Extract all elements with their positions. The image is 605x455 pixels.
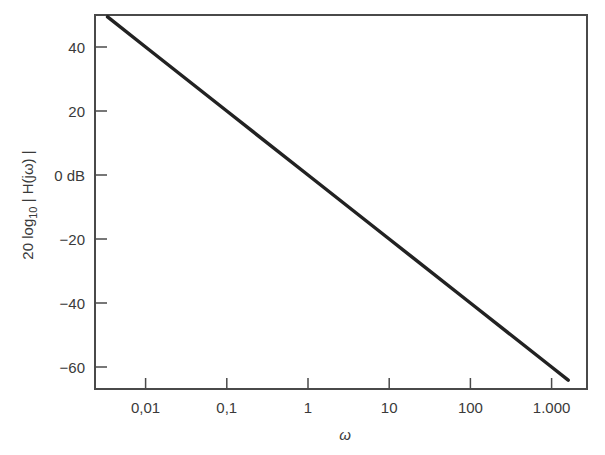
y-axis-ticks: 40200 dB−20−40−60	[54, 39, 107, 376]
y-tick-label: −40	[60, 295, 85, 312]
y-tick-label: −60	[60, 359, 85, 376]
bode-magnitude-chart: 0,010,11101001.000 40200 dB−20−40−60 ω 2…	[0, 0, 605, 455]
x-tick-label: 100	[458, 399, 483, 416]
y-tick-label: 20	[68, 103, 85, 120]
x-tick-label: 1.000	[533, 399, 571, 416]
y-tick-label: −20	[60, 231, 85, 248]
x-tick-label: 0,01	[131, 399, 160, 416]
x-tick-label: 10	[381, 399, 398, 416]
x-tick-label: 0,1	[216, 399, 237, 416]
y-axis-label: 20 log10 | H(jω) |	[19, 150, 39, 259]
magnitude-line	[108, 17, 569, 380]
x-axis-ticks: 0,010,11101001.000	[131, 378, 570, 416]
y-tick-label: 0 dB	[54, 167, 85, 184]
y-tick-label: 40	[68, 39, 85, 56]
x-axis-label: ω	[339, 426, 351, 443]
x-tick-label: 1	[304, 399, 312, 416]
